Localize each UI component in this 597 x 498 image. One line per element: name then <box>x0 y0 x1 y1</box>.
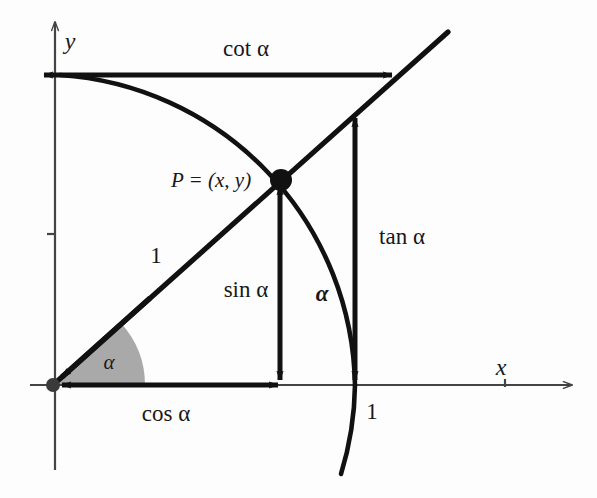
y-axis-label: y <box>65 29 76 53</box>
point-p-label: P = (x, y) <box>171 170 251 191</box>
origin-angle-label: α <box>103 352 114 373</box>
origin-dot <box>46 378 60 392</box>
radius-label: 1 <box>150 244 162 267</box>
tan-label: tan α <box>379 225 425 248</box>
cot-label: cot α <box>223 37 269 60</box>
point-p-dot <box>270 169 292 191</box>
trigonometry-diagram: y x cot α P = (x, y) tan α 1 sin α α α c… <box>0 0 597 498</box>
arc-angle-label: α <box>316 282 329 305</box>
diagram-canvas <box>0 0 597 498</box>
cos-label: cos α <box>142 402 190 425</box>
unit-length-label: 1 <box>366 400 378 423</box>
sin-label: sin α <box>224 278 269 301</box>
unit-circle-arc-tail <box>341 385 355 474</box>
x-axis-label: x <box>496 355 507 379</box>
